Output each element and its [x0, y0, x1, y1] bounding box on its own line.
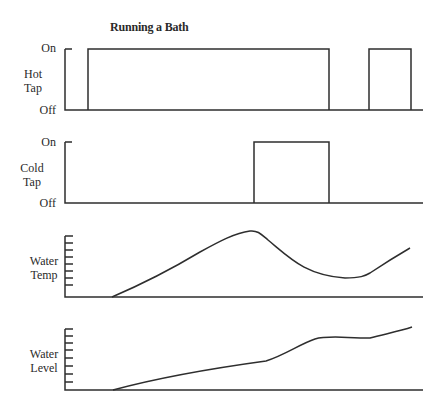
timing-diagram [0, 0, 446, 414]
water-level-ticks [65, 329, 73, 382]
hot-tap-signal [65, 49, 423, 110]
water-level-curve [113, 327, 412, 390]
cold-tap-signal [65, 142, 423, 203]
water-temp-ticks [65, 236, 73, 285]
water-temp-axis [65, 236, 423, 297]
water-temp-curve [112, 231, 410, 297]
